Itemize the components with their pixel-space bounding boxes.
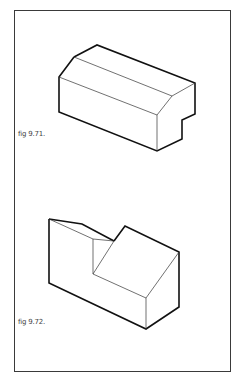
fig-9-71-drawing (59, 45, 195, 151)
figure-drawings (0, 0, 242, 384)
fig-9-72-drawing (49, 219, 179, 329)
fig-9-71-caption: fig 9.71. (18, 130, 45, 138)
fig-9-72-caption: fig 9.72. (18, 318, 45, 326)
